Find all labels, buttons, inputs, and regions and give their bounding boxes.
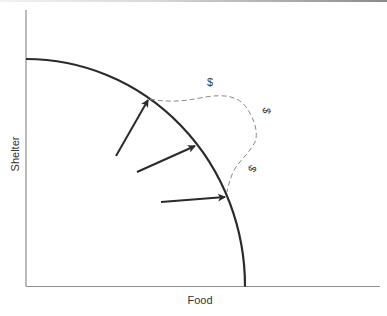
ppf-diagram: $ $ $ Food Shelter bbox=[0, 0, 387, 316]
arrow-2 bbox=[137, 146, 195, 172]
dollar-sign-top: $ bbox=[207, 76, 213, 88]
dollar-sign-right-upper: $ bbox=[260, 107, 273, 115]
x-axis-label: Food bbox=[187, 294, 212, 306]
dollar-sign-right-lower: $ bbox=[246, 163, 259, 174]
y-axis-label: Shelter bbox=[9, 136, 21, 171]
arrow-1 bbox=[116, 100, 148, 156]
arrow-3 bbox=[161, 197, 225, 202]
ppf-curve bbox=[26, 59, 245, 287]
